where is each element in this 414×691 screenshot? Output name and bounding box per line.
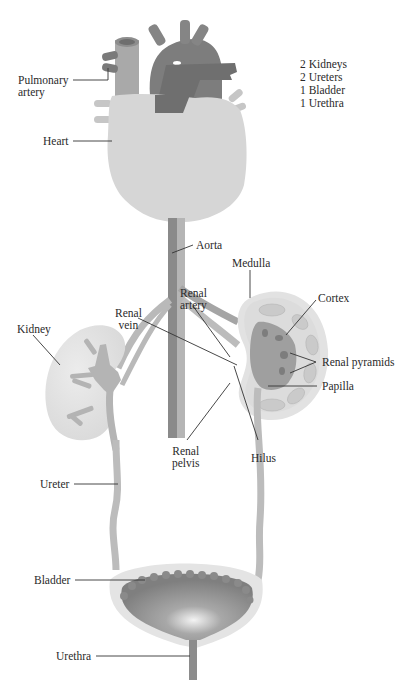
label-renal-vein: Renal vein [115,307,142,331]
label-renal-pelvis: Renal pelvis [172,445,199,469]
leader-kidney [33,335,60,365]
vena-cava [115,37,139,102]
diagram-canvas [0,0,414,691]
label-medulla: Medulla [232,257,270,269]
label-aorta: Aorta [196,239,222,251]
heart [108,94,247,222]
leader-renal-vein [138,318,237,365]
summary-urethra: 1 Urethra [300,97,347,110]
leader-renal-pelvis [187,383,230,440]
left-ureter [113,440,118,570]
label-renal-artery: Renal artery [180,287,207,311]
organ-summary: 2 Kidneys 2 Ureters 1 Bladder 1 Urethra [300,58,347,110]
summary-bladder: 1 Bladder [300,84,347,97]
label-urethra: Urethra [56,650,91,662]
leader-pulmonary-artery [73,68,108,80]
label-papilla: Papilla [322,380,354,392]
label-pulmonary-artery: Pulmonary artery [18,74,68,98]
bladder-group [109,564,262,681]
left-kidney [45,325,125,450]
label-kidney: Kidney [17,323,51,335]
summary-kidneys: 2 Kidneys [300,58,347,71]
urethra [189,640,197,680]
heart-group [94,20,247,222]
label-renal-pyramids: Renal pyramids [322,356,395,368]
right-ureter [257,388,261,580]
anatomy-diagram: 2 Kidneys 2 Ureters 1 Bladder 1 Urethra … [0,0,414,691]
right-kidney [238,291,328,580]
label-ureter: Ureter [40,478,69,490]
label-bladder: Bladder [34,574,70,586]
label-cortex: Cortex [318,292,349,304]
summary-ureters: 2 Ureters [300,71,347,84]
label-heart: Heart [43,135,69,147]
label-hilus: Hilus [251,452,276,464]
